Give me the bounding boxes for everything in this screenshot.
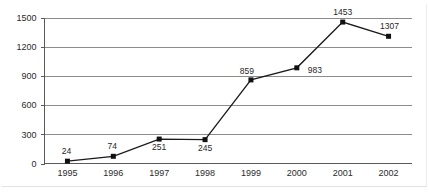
data-point-value-label: 859 bbox=[240, 66, 254, 76]
axis-ticks bbox=[41, 19, 45, 165]
data-series-line bbox=[67, 22, 388, 161]
y-axis-label: 300 bbox=[21, 130, 36, 140]
x-axis-label: 1998 bbox=[195, 168, 215, 178]
y-axis-label: 0 bbox=[31, 159, 36, 169]
data-point-marker bbox=[248, 77, 253, 82]
data-point-value-label: 1453 bbox=[333, 7, 352, 17]
x-axis-label: 2001 bbox=[333, 168, 353, 178]
data-point-marker bbox=[386, 34, 391, 39]
x-axis-label: 2000 bbox=[287, 168, 307, 178]
frame-right-edge bbox=[426, 4, 427, 186]
data-point-marker bbox=[111, 154, 116, 159]
data-point-marker bbox=[203, 137, 208, 142]
grid-lines bbox=[45, 19, 412, 135]
data-point-value-label: 24 bbox=[62, 146, 72, 156]
x-axis-label: 1999 bbox=[241, 168, 261, 178]
y-axis-label: 600 bbox=[21, 100, 36, 110]
y-axis-label: 1500 bbox=[16, 13, 36, 23]
x-axis-tick-labels: 19951996199719981999200020012002 bbox=[57, 168, 398, 178]
data-point-value-label: 74 bbox=[108, 141, 118, 151]
data-point-marker bbox=[65, 159, 70, 164]
data-point-value-label: 983 bbox=[308, 65, 322, 75]
x-axis-label: 1997 bbox=[149, 168, 169, 178]
chart-canvas: 030060090012001500 199519961997199819992… bbox=[0, 0, 429, 192]
x-axis-label: 2002 bbox=[379, 168, 399, 178]
x-axis-label: 1995 bbox=[57, 168, 77, 178]
y-axis-label: 900 bbox=[21, 71, 36, 81]
data-point-marker bbox=[157, 137, 162, 142]
y-axis-tick-labels: 030060090012001500 bbox=[16, 13, 36, 169]
data-point-marker bbox=[294, 65, 299, 70]
x-axis-label: 1996 bbox=[103, 168, 123, 178]
data-point-value-label: 251 bbox=[152, 142, 166, 152]
data-point-value-label: 1307 bbox=[380, 21, 399, 31]
line-chart: 030060090012001500 199519961997199819992… bbox=[0, 0, 429, 192]
data-point-marker bbox=[340, 20, 345, 25]
data-point-value-labels: 247425124585998314531307 bbox=[62, 7, 400, 156]
data-point-value-label: 245 bbox=[198, 143, 212, 153]
frame-bottom-edge bbox=[2, 186, 427, 187]
y-axis-label: 1200 bbox=[16, 42, 36, 52]
